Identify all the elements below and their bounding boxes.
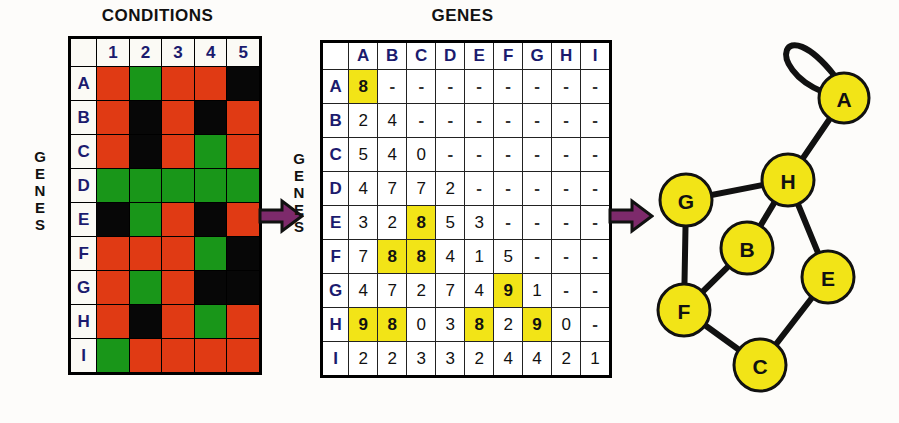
matrix-cell: 0 xyxy=(552,308,581,342)
heatmap-title: CONDITIONS xyxy=(60,6,255,26)
heatmap-cell-black xyxy=(194,203,227,237)
matrix-row-header: D xyxy=(322,172,349,206)
similarity-matrix-grid: ABCDEFGHIA8--------B24-------C540------D… xyxy=(320,40,612,378)
matrix-cell: 1 xyxy=(523,274,552,308)
matrix-cell: - xyxy=(552,138,581,172)
matrix-cell-highlighted: 9 xyxy=(349,308,378,342)
heatmap-cell-red xyxy=(162,135,195,169)
heatmap-cell-black xyxy=(129,135,162,169)
matrix-cell: - xyxy=(581,206,611,240)
graph-node-label: G xyxy=(678,190,694,213)
heatmap-cell-red xyxy=(162,305,195,339)
graph-node-b[interactable]: B xyxy=(721,222,773,274)
heatmap-cell-red xyxy=(227,305,261,339)
heatmap-cell-red xyxy=(97,135,130,169)
matrix-cell: - xyxy=(581,274,611,308)
matrix-row: B24------- xyxy=(322,104,611,138)
matrix-cell: - xyxy=(494,172,523,206)
graph-nodes-layer: AHGBEFC xyxy=(658,73,869,391)
matrix-cell: 2 xyxy=(407,274,436,308)
matrix-side-label-genes: GENES xyxy=(289,150,309,235)
matrix-cell: 2 xyxy=(552,342,581,377)
heatmap-row: C xyxy=(70,135,261,169)
matrix-col-header: I xyxy=(581,42,611,70)
matrix-cell: - xyxy=(581,138,611,172)
matrix-cell: - xyxy=(436,138,465,172)
matrix-cell: 7 xyxy=(378,274,407,308)
matrix-col-header: H xyxy=(552,42,581,70)
graph-node-a[interactable]: A xyxy=(819,73,869,123)
matrix-col-header: E xyxy=(465,42,494,70)
matrix-cell: 4 xyxy=(349,172,378,206)
matrix-cell: - xyxy=(523,138,552,172)
graph-node-label: B xyxy=(739,238,754,261)
heatmap-cell-red xyxy=(227,339,261,374)
matrix-cell: - xyxy=(552,274,581,308)
matrix-row: E32853---- xyxy=(322,206,611,240)
matrix-cell: - xyxy=(581,104,611,138)
graph-node-label: A xyxy=(836,88,851,111)
matrix-col-header: C xyxy=(407,42,436,70)
matrix-cell: 3 xyxy=(436,342,465,377)
graph-node-e[interactable]: E xyxy=(802,251,854,303)
matrix-cell: - xyxy=(465,138,494,172)
heatmap-col-header: 3 xyxy=(162,38,195,67)
matrix-cell: - xyxy=(494,138,523,172)
heatmap-cell-green xyxy=(194,135,227,169)
matrix-cell: 5 xyxy=(436,206,465,240)
heatmap-cell-red xyxy=(162,237,195,271)
matrix-title: GENES xyxy=(320,6,605,26)
matrix-cell: 3 xyxy=(465,206,494,240)
graph-node-c[interactable]: C xyxy=(734,339,786,391)
graph-node-f[interactable]: F xyxy=(658,284,710,336)
matrix-cell: - xyxy=(494,206,523,240)
matrix-row-header: A xyxy=(322,70,349,104)
heatmap-cell-green xyxy=(129,203,162,237)
heatmap-cell-red xyxy=(97,237,130,271)
matrix-cell: 1 xyxy=(581,342,611,377)
heatmap-header-row: 12345 xyxy=(70,38,261,67)
heatmap-cell-red xyxy=(129,339,162,374)
matrix-cell: 1 xyxy=(465,240,494,274)
heatmap-cell-green xyxy=(129,271,162,305)
heatmap-cell-green xyxy=(129,169,162,203)
graph-node-label: H xyxy=(780,170,795,193)
matrix-row-header: C xyxy=(322,138,349,172)
heatmap-col-header: 1 xyxy=(97,38,130,67)
heatmap-side-label-genes: GENES xyxy=(30,148,50,233)
heatmap-row: A xyxy=(70,67,261,101)
matrix-cell: - xyxy=(581,240,611,274)
heatmap-cell-red xyxy=(162,67,195,101)
matrix-cell: - xyxy=(581,70,611,104)
matrix-cell: - xyxy=(552,172,581,206)
heatmap-cell-black xyxy=(194,271,227,305)
graph-node-label: C xyxy=(752,355,767,378)
matrix-row-header: G xyxy=(322,274,349,308)
heatmap-col-header: 2 xyxy=(129,38,162,67)
matrix-cell: 3 xyxy=(407,342,436,377)
matrix-row-header: I xyxy=(322,342,349,377)
heatmap-cell-red xyxy=(227,135,261,169)
heatmap-cell-green xyxy=(194,169,227,203)
matrix-cell: - xyxy=(552,70,581,104)
network-graph: AHGBEFC xyxy=(612,0,899,423)
matrix-col-header: B xyxy=(378,42,407,70)
heatmap-cell-black xyxy=(129,305,162,339)
heatmap-row-header: A xyxy=(70,67,97,101)
conditions-heatmap-panel: CONDITIONS GENES 12345ABCDEFGHI xyxy=(0,0,262,423)
heatmap-row: B xyxy=(70,101,261,135)
graph-node-g[interactable]: G xyxy=(660,174,712,226)
graph-node-h[interactable]: H xyxy=(762,154,814,206)
heatmap-cell-red xyxy=(227,101,261,135)
matrix-cell-highlighted: 9 xyxy=(494,274,523,308)
matrix-cell: - xyxy=(494,104,523,138)
matrix-cell-highlighted: 8 xyxy=(407,206,436,240)
heatmap-cell-black xyxy=(97,203,130,237)
matrix-row-header: H xyxy=(322,308,349,342)
matrix-header-row: ABCDEFGHI xyxy=(322,42,611,70)
matrix-cell: - xyxy=(523,104,552,138)
matrix-cell: 2 xyxy=(494,308,523,342)
matrix-cell: 7 xyxy=(436,274,465,308)
matrix-row-header: B xyxy=(322,104,349,138)
heatmap-row: G xyxy=(70,271,261,305)
